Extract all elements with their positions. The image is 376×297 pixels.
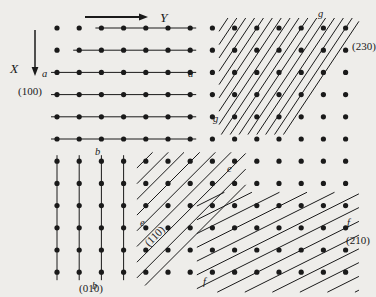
lattice-dot	[54, 203, 59, 208]
lattice-dot	[188, 25, 193, 30]
lattice-dot	[99, 136, 104, 141]
lattice-dot	[121, 159, 126, 164]
lattice-dot	[232, 136, 237, 141]
lattice-dot	[121, 92, 126, 97]
lattice-dot	[121, 270, 126, 275]
point-label-e-upper: e	[227, 163, 232, 174]
lattice-dot	[299, 70, 304, 75]
y-axis-label: Y	[160, 10, 169, 25]
lattice-dot	[254, 48, 259, 53]
lattice-dot	[99, 159, 104, 164]
lattice-dot	[321, 270, 326, 275]
lattice-dot	[321, 247, 326, 252]
lattice-dot	[299, 203, 304, 208]
point-label-e-lower: e	[140, 217, 145, 228]
lattice-dot	[254, 247, 259, 252]
miller-label-100: (100)	[18, 85, 42, 98]
lattice-dot	[121, 70, 126, 75]
lattice-dot	[99, 25, 104, 30]
figure-canvas: YX(100)aa(010)bb(110)ee(210)ff(230)gg	[0, 0, 376, 297]
lattice-dot	[99, 225, 104, 230]
plane-line-210	[197, 192, 307, 247]
lattice-dot	[321, 114, 326, 119]
lattice-dot	[143, 136, 148, 141]
lattice-dot	[165, 48, 170, 53]
lattice-dot	[121, 247, 126, 252]
plane-line-230	[219, 18, 228, 31]
lattice-dot	[165, 270, 170, 275]
lattice-dot	[232, 159, 237, 164]
lattice-dot	[54, 25, 59, 30]
lattice-dot	[299, 25, 304, 30]
lattice-dot	[143, 203, 148, 208]
lattice-dot	[276, 225, 281, 230]
lattice-dot	[165, 181, 170, 186]
lattice-dot	[254, 270, 259, 275]
lattice-dot	[143, 114, 148, 119]
point-label-f-lower: f	[203, 276, 208, 287]
lattice-dot	[254, 159, 259, 164]
lattice-dot	[165, 225, 170, 230]
lattice-dot	[343, 136, 348, 141]
lattice-dot	[321, 70, 326, 75]
lattice-dot	[143, 48, 148, 53]
point-label-a-right: a	[188, 68, 193, 79]
plane-line-210	[217, 221, 359, 292]
lattice-dot	[232, 114, 237, 119]
plane-line-110	[137, 152, 168, 183]
lattice-dot	[210, 225, 215, 230]
lattice-dot	[276, 48, 281, 53]
lattice-dot	[254, 25, 259, 30]
plane-line-210	[355, 290, 359, 292]
lattice-dot	[54, 92, 59, 97]
lattice-dot	[99, 181, 104, 186]
lattice-dot	[254, 114, 259, 119]
lattice-dot	[321, 92, 326, 97]
lattice-dot	[276, 247, 281, 252]
lattice-dot	[254, 225, 259, 230]
lattice-dot	[210, 159, 215, 164]
lattice-dot	[232, 70, 237, 75]
lattice-dot	[77, 92, 82, 97]
lattice-dot	[299, 114, 304, 119]
lattice-dot	[165, 92, 170, 97]
lattice-dot	[54, 48, 59, 53]
lattice-dot	[276, 159, 281, 164]
lattice-dot	[143, 70, 148, 75]
lattice-dot	[254, 92, 259, 97]
lattice-dot	[343, 159, 348, 164]
lattice-dot	[276, 70, 281, 75]
plane-line-210	[327, 276, 359, 292]
lattice-dot	[299, 270, 304, 275]
lattice-dot	[276, 181, 281, 186]
lattice-dot	[343, 203, 348, 208]
lattice-dot	[54, 225, 59, 230]
lattice-dot	[276, 270, 281, 275]
lattice-dot	[188, 114, 193, 119]
lattice-dot	[232, 25, 237, 30]
lattice-dot	[343, 181, 348, 186]
lattice-dot	[210, 203, 215, 208]
lattice-dot	[121, 203, 126, 208]
lattice-dot	[232, 92, 237, 97]
point-label-g-lower: g	[213, 113, 218, 124]
lattice-dot	[188, 159, 193, 164]
point-label-a-left: a	[42, 68, 47, 79]
lattice-dot	[210, 247, 215, 252]
lattice-dot	[321, 25, 326, 30]
lattice-dot	[276, 203, 281, 208]
plane-line-230	[219, 18, 255, 71]
lattice-dot	[143, 159, 148, 164]
lattice-dot	[343, 270, 348, 275]
lattice-dot	[77, 159, 82, 164]
lattice-dot	[165, 136, 170, 141]
lattice-dot	[321, 181, 326, 186]
lattice-dot	[99, 92, 104, 97]
plane-line-230	[219, 18, 281, 111]
lattice-dot	[343, 114, 348, 119]
lattice-dot	[143, 181, 148, 186]
lattice-dot	[254, 181, 259, 186]
lattice-dot	[210, 48, 215, 53]
lattice-dot	[299, 136, 304, 141]
lattice-dot	[143, 270, 148, 275]
